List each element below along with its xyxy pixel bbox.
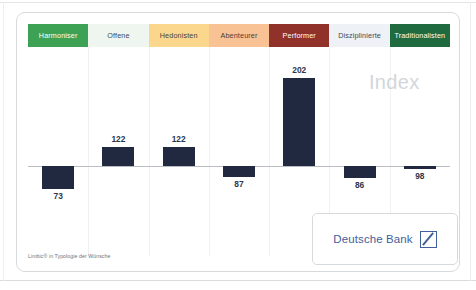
bar-5[interactable] (344, 166, 376, 178)
deutsche-bank-wordmark: Deutsche Bank (333, 233, 412, 245)
bar-3[interactable] (223, 166, 255, 177)
scan-frame-right-line (470, 2, 471, 281)
bar-column-3[interactable]: 87 (209, 47, 269, 237)
bar-value-label-0: 73 (53, 191, 62, 201)
bar-6[interactable] (404, 166, 436, 169)
segment-label-1[interactable]: Offene (88, 24, 148, 47)
segment-label-4[interactable]: Performer (269, 24, 329, 47)
bar-column-2[interactable]: 122 (149, 47, 209, 237)
bar-value-label-1: 122 (111, 134, 125, 144)
source-note: Limbic® in Typologie der Wünsche (28, 253, 110, 259)
bar-column-0[interactable]: 73 (28, 47, 88, 237)
index-watermark-label: Index (369, 71, 419, 94)
bar-column-1[interactable]: 122 (88, 47, 148, 237)
bar-0[interactable] (42, 166, 74, 189)
bar-column-4[interactable]: 202 (269, 47, 329, 237)
deutsche-bank-logo-box: Deutsche Bank (312, 213, 458, 265)
bar-2[interactable] (163, 147, 195, 166)
bar-1[interactable] (102, 147, 134, 166)
segment-label-5[interactable]: Disziplinierte (329, 24, 389, 47)
bar-value-label-3: 87 (234, 179, 243, 189)
scan-frame-left-line (3, 2, 4, 281)
scan-frame-top-line (0, 2, 476, 3)
bar-value-label-6: 98 (415, 171, 424, 181)
segment-header-band: HarmoniserOffeneHedonistenAbenteurerPerf… (28, 24, 450, 47)
screenshot-root: HarmoniserOffeneHedonistenAbenteurerPerf… (0, 0, 476, 290)
bar-4[interactable] (283, 78, 315, 166)
bar-value-label-4: 202 (292, 65, 306, 75)
deutsche-bank-slash-mark-icon (420, 231, 437, 248)
segment-label-3[interactable]: Abenteurer (209, 24, 269, 47)
bar-value-label-2: 122 (172, 134, 186, 144)
bar-value-label-5: 86 (355, 180, 364, 190)
segment-label-2[interactable]: Hedonisten (149, 24, 209, 47)
segment-label-6[interactable]: Traditionalisten (390, 24, 450, 47)
chart-card: HarmoniserOffeneHedonistenAbenteurerPerf… (16, 12, 460, 272)
scan-frame-bottom-line (0, 280, 476, 281)
segment-label-0[interactable]: Harmoniser (28, 24, 88, 47)
